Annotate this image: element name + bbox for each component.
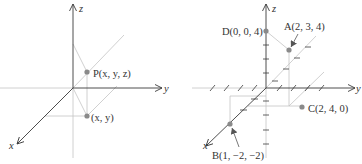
point-p-marker: [84, 69, 89, 74]
point-projection-label: (x, y): [91, 112, 114, 124]
y-axis-label: y: [355, 83, 361, 94]
y-axis-label: y: [163, 83, 169, 94]
point-b-pointer: [232, 128, 239, 147]
right-figure: z y x D(0, 0, 4) A(2, 3, 4) C(2, 4, 0) B…: [192, 3, 361, 162]
point-p-label: P(x, y, z): [93, 68, 131, 80]
point-d-marker: [263, 28, 268, 33]
left-guides: [0, 35, 124, 158]
point-projection-marker: [84, 113, 89, 118]
point-d-label: D(0, 0, 4): [222, 26, 263, 38]
point-a-pointer: [291, 34, 298, 47]
x-axis-label: x: [202, 140, 208, 151]
right-guides: [192, 31, 324, 158]
left-figure: z y x P(x, y, z) (x, y): [0, 3, 169, 158]
z-axis-label: z: [271, 3, 276, 14]
point-c-marker: [299, 104, 304, 109]
point-b-marker: [227, 121, 232, 126]
left-axes: [17, 4, 162, 144]
point-c-label: C(2, 4, 0): [308, 103, 349, 115]
z-axis-label: z: [78, 3, 83, 14]
point-a-label: A(2, 3, 4): [284, 21, 325, 33]
x-axis: [206, 88, 266, 146]
coordinate-diagrams: z y x P(x, y, z) (x, y): [0, 0, 362, 164]
point-a-marker: [286, 47, 291, 52]
x-axis-label: x: [8, 140, 14, 151]
point-b-label: B(1, −2, −2): [212, 150, 265, 162]
